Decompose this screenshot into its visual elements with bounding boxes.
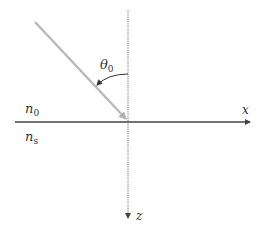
x-axis-label: x	[242, 103, 249, 117]
diagram-canvas: θ0 n0 ns x z	[0, 0, 263, 233]
ns-label: ns	[25, 129, 38, 146]
theta-label: θ0	[100, 57, 114, 74]
angle-arc-arrow	[97, 74, 128, 85]
z-axis-label: z	[135, 209, 143, 223]
n0-label: n0	[25, 101, 39, 118]
